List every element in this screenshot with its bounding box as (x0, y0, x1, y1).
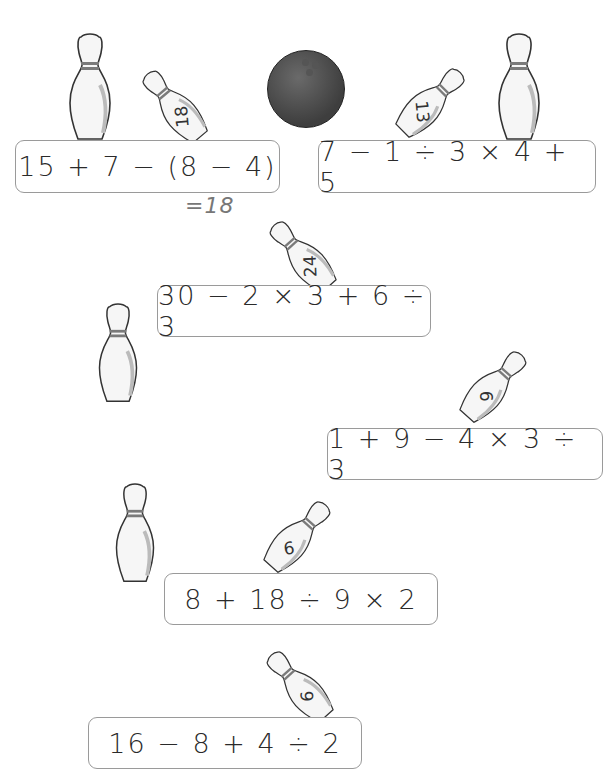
expression-text: 1 + 9 − 4 × 3 ÷ 3 (328, 423, 602, 485)
expression-text: 15 + 7 − (8 − 4) (18, 151, 276, 182)
standing-pin-icon (96, 303, 140, 403)
expression-box-1: 15 + 7 − (8 − 4) (15, 140, 280, 193)
ball-hole (302, 59, 309, 66)
expression-box-2: 7 − 1 ÷ 3 × 4 + 5 (318, 140, 596, 193)
svg-text:13: 13 (412, 100, 434, 124)
labeled-pin-5: 9 (252, 492, 342, 582)
standing-pin-icon (68, 32, 112, 142)
expression-box-6: 16 − 8 + 4 ÷ 2 (88, 717, 362, 769)
expression-box-3: 30 − 2 × 3 + 6 ÷ 3 (157, 285, 431, 337)
expression-text: 16 − 8 + 4 ÷ 2 (108, 728, 341, 759)
standing-pin-icon (113, 483, 157, 583)
standing-pin-icon (497, 32, 541, 142)
svg-text:24: 24 (300, 255, 321, 278)
ball-hole (306, 69, 313, 76)
expression-text: 7 − 1 ÷ 3 × 4 + 5 (319, 136, 595, 198)
ball-hole (312, 62, 319, 69)
bowling-ball-icon (267, 50, 345, 128)
svg-text:18: 18 (171, 105, 193, 129)
labeled-pin-4: 6 (448, 342, 538, 432)
expression-text: 30 − 2 × 3 + 6 ÷ 3 (158, 280, 430, 342)
svg-text:6: 6 (476, 391, 496, 402)
expression-box-4: 1 + 9 − 4 × 3 ÷ 3 (327, 428, 603, 480)
expression-box-5: 8 + 18 ÷ 9 × 2 (164, 573, 438, 625)
svg-text:6: 6 (297, 691, 317, 703)
labeled-pin-2: 13 (385, 58, 475, 148)
handwritten-answer: =18 (185, 193, 234, 218)
expression-text: 8 + 18 ÷ 9 × 2 (184, 584, 417, 615)
labeled-pin-1: 18 (130, 62, 220, 152)
